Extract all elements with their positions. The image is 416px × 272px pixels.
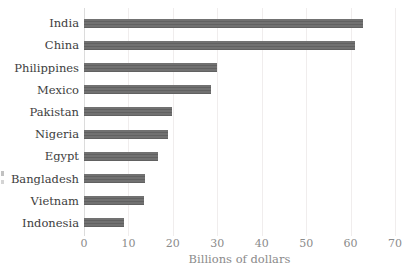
bar [84,130,168,139]
rows: IndiaChinaPhilippinesMexicoPakistanNiger… [0,12,395,234]
bar-chart: IndiaChinaPhilippinesMexicoPakistanNiger… [0,0,416,272]
x-tick-label: 10 [121,237,135,250]
x-tick-label: 40 [255,237,269,250]
bar [84,174,145,183]
category-label: China [0,38,84,52]
bar [84,19,363,28]
x-tick-label: 30 [210,237,224,250]
bar-track [84,130,395,139]
bar-row: Bangladesh [0,167,395,189]
bar-row: Philippines [0,56,395,78]
bar-track [84,174,395,183]
bar-track [84,63,395,72]
bar [84,41,355,50]
bar-track [84,19,395,28]
clipped-edge-fragment [1,171,4,187]
bar [84,63,217,72]
bar-track [84,218,395,227]
bar-track [84,85,395,94]
bar-row: Nigeria [0,123,395,145]
bar [84,107,172,116]
bar-row: Egypt [0,145,395,167]
category-label: Egypt [0,149,84,163]
category-label: Pakistan [0,105,84,119]
category-label: Indonesia [0,216,84,230]
bar-row: Vietnam [0,190,395,212]
bar-track [84,107,395,116]
bar-track [84,41,395,50]
x-tick-label: 70 [388,237,402,250]
bar [84,196,144,205]
category-label: Philippines [0,61,84,75]
bar-row: Mexico [0,79,395,101]
bar-track [84,196,395,205]
x-tick-label: 0 [81,237,88,250]
bar-row: Indonesia [0,212,395,234]
bar [84,85,211,94]
x-axis-title: Billions of dollars [84,252,395,266]
category-label: Bangladesh [0,172,84,186]
bar-row: Pakistan [0,101,395,123]
x-tick-label: 50 [299,237,313,250]
x-tick-label: 20 [166,237,180,250]
category-label: India [0,16,84,30]
bar [84,218,124,227]
category-label: Nigeria [0,127,84,141]
category-label: Vietnam [0,194,84,208]
x-axis: 010203040506070 [84,237,395,251]
bar-row: India [0,12,395,34]
gridline [395,8,396,236]
bar [84,152,158,161]
x-tick-label: 60 [344,237,358,250]
category-label: Mexico [0,83,84,97]
bar-row: China [0,34,395,56]
bar-track [84,152,395,161]
